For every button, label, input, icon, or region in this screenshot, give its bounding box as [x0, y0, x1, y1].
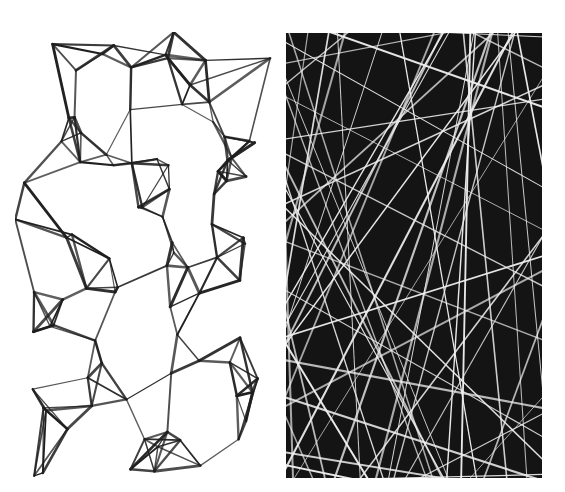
line-network-image — [286, 33, 542, 478]
polygonal-network-panel — [15, 32, 272, 477]
polygonal-network-image — [15, 32, 272, 477]
line-network-panel — [286, 33, 542, 478]
